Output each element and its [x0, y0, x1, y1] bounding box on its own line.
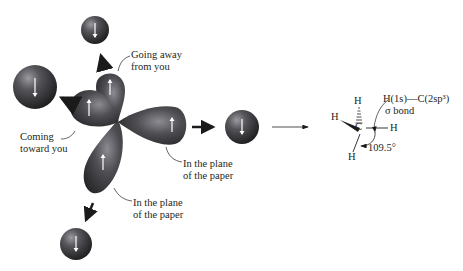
- leader-going-away: [118, 56, 130, 71]
- sp3-hybridization-diagram: [0, 0, 463, 271]
- leader-plane-right: [166, 147, 182, 162]
- h-1s-orbital-right: [225, 110, 259, 144]
- bond-angle-label: 109.5°: [368, 142, 396, 154]
- h-1s-orbital-bottom: [60, 228, 92, 260]
- atom-h-left: H: [331, 111, 339, 123]
- sp3-lobe-bottom: [84, 120, 123, 193]
- label-coming-toward: Coming toward you: [20, 131, 68, 155]
- sigma-bond-label-line2: σ bond: [385, 105, 414, 117]
- atom-h-bottom: H: [348, 151, 356, 163]
- bond-bottom: [353, 134, 360, 152]
- approach-arrow-bottom: [86, 203, 93, 220]
- atom-carbon: C: [355, 121, 362, 133]
- atom-h-top: H: [354, 95, 362, 107]
- sigma-bond-label-line1: H(1s)—C(2sp³): [383, 93, 449, 105]
- label-going-away: Going away from you: [131, 49, 182, 73]
- h-1s-orbital-left: [13, 65, 57, 109]
- label-plane-bottom: In the plane of the paper: [133, 197, 183, 221]
- leader-plane-bottom: [114, 188, 132, 201]
- approach-arrow-top: [101, 56, 104, 67]
- label-plane-right: In the plane of the paper: [183, 158, 233, 182]
- h-1s-orbital-top: [81, 16, 109, 44]
- atom-h-right: H: [390, 122, 398, 134]
- sp3-lobe-right: [118, 106, 186, 145]
